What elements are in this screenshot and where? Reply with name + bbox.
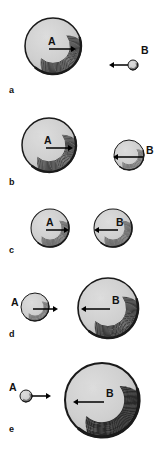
object-c-B[interactable] [94,209,132,247]
object-label-b-B: B [146,144,154,156]
object-d-B[interactable] [78,278,138,338]
row-label-a: a [9,86,14,95]
object-label-e-B: B [106,387,114,399]
object-c-A[interactable] [31,209,69,247]
row-label-d: d [9,330,15,339]
object-b-B[interactable] [113,140,144,170]
object-e-B[interactable] [65,363,139,437]
object-label-d-B: B [112,294,120,306]
row-label-c: c [9,246,14,255]
object-label-b-A: A [44,134,52,146]
object-label-c-B: B [116,216,124,228]
object-label-a-B: B [141,44,149,56]
object-label-e-A: A [9,381,17,393]
object-label-a-A: A [48,35,56,47]
collision-diagram-figure: ABABABABAB [0,0,154,453]
row-label-e: e [9,425,14,434]
object-label-c-A: A [46,216,54,228]
row-label-b: b [9,178,15,187]
object-label-d-A: A [11,296,19,308]
